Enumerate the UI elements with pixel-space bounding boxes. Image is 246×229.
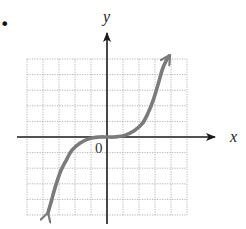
origin-label: 0 xyxy=(95,140,103,156)
cubic-graph: • y x 0 xyxy=(0,0,246,229)
cubic-curve xyxy=(48,56,170,214)
y-axis-label: y xyxy=(101,8,111,26)
x-axis-label: x xyxy=(229,128,237,145)
bullet-marker: • xyxy=(0,15,9,34)
